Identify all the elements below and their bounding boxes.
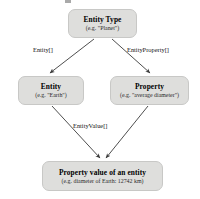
edge-entity-type-to-entity [50,39,94,73]
node-property-value[interactable]: Property value of an entity (e.g. diamet… [42,161,163,191]
entity-model-diagram: Entity Type (e.g. "Planet") Entity (e.g.… [0,0,200,199]
scan-artifact [65,0,71,3]
node-entity-type-title: Entity Type [84,15,122,24]
node-property-value-subtitle: (e.g. diameter of Earth: 12742 km) [62,177,144,185]
edge-label-entity: Entity[] [33,46,53,54]
edge-entity-type-to-property [112,39,150,73]
node-entity[interactable]: Entity (e.g. "Earth") [18,76,84,105]
edge-label-entity-value: EntityValue[] [73,122,107,130]
node-entity-type-subtitle: (e.g. "Planet") [86,24,119,32]
node-entity-title: Entity [41,82,61,91]
edge-label-entity-property: EntityProperty[] [127,46,169,54]
edge-entity-to-property-value [52,106,100,158]
edge-property-to-property-value [106,106,148,158]
node-property[interactable]: Property (e.g. "average diameter") [110,76,189,105]
node-property-subtitle: (e.g. "average diameter") [120,91,179,99]
node-entity-subtitle: (e.g. "Earth") [35,91,66,99]
node-property-value-title: Property value of an entity [59,168,146,177]
node-entity-type[interactable]: Entity Type (e.g. "Planet") [68,9,137,38]
node-property-title: Property [135,82,164,91]
